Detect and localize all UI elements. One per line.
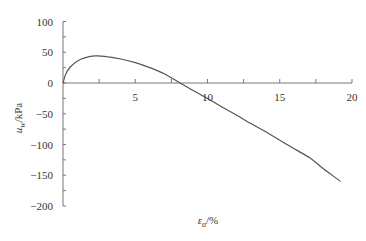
y-tick-label: 0 (48, 77, 54, 89)
y-tick-label: −100 (30, 139, 53, 151)
y-tick-label: 100 (37, 16, 54, 28)
y-tick-label: −50 (36, 108, 54, 120)
x-tick-labels: 5101520 (133, 91, 359, 103)
y-axis-label: uw/kPa (12, 103, 27, 134)
x-tick-label: 10 (202, 91, 214, 103)
y-tick-label: −150 (30, 169, 53, 181)
y-tick-label: 50 (42, 46, 54, 58)
y-tick-labels: 100500−50−100−150−200 (30, 16, 53, 213)
x-tick-label: 5 (133, 91, 139, 103)
x-tick-label: 20 (347, 91, 359, 103)
x-tick-label: 15 (274, 91, 286, 103)
y-tick-label: −200 (30, 200, 53, 212)
x-axis-label: εa/% (198, 214, 219, 229)
axes (63, 22, 352, 207)
chart: 5101520 100500−50−100−150−200 uw/kPa εa/… (0, 0, 366, 241)
data-line-uw (63, 56, 340, 182)
